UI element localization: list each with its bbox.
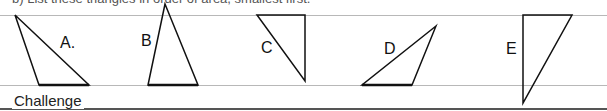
triangle-b-label: B — [141, 32, 152, 50]
triangle-d — [362, 26, 436, 85]
triangle-b — [148, 4, 198, 85]
triangle-a-label: A. — [60, 34, 75, 52]
triangle-c-label: C — [261, 39, 273, 57]
triangle-e-label: E — [506, 40, 517, 58]
triangle-e — [523, 15, 572, 103]
challenge-divider — [0, 108, 607, 110]
triangle-a — [15, 15, 89, 85]
challenge-heading: Challenge — [12, 93, 84, 109]
triangle-d-label: D — [384, 40, 396, 58]
